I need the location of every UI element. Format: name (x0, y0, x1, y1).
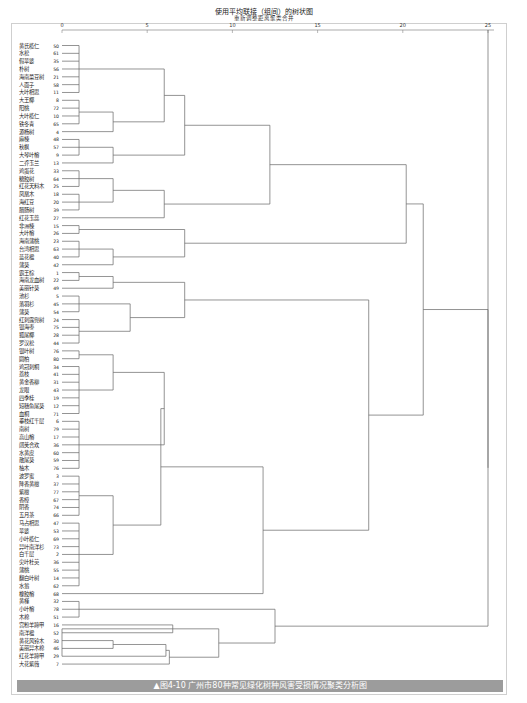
leaf-name: 台湾相思 (19, 245, 40, 253)
leaf-name: 大叶榕 (19, 229, 35, 237)
leaf-name: 池杉 (19, 292, 30, 300)
leaf-id: 36 (53, 443, 59, 448)
leaf-id: 45 (53, 302, 59, 307)
leaf-id: 63 (53, 247, 59, 252)
leaf-name: 糖胶树 (19, 175, 35, 183)
leaf-name: 阔荚合欢 (19, 441, 40, 449)
leaf-id: 14 (53, 576, 59, 581)
leaf-id: 36 (53, 560, 59, 565)
leaf-id: 33 (53, 169, 59, 174)
leaf-id: 7 (56, 662, 59, 667)
leaf-id: 34 (53, 365, 59, 370)
leaf-name: 假苹婆 (19, 57, 35, 65)
leaf-id: 8 (56, 98, 59, 103)
leaf-id: 15 (53, 224, 59, 229)
leaf-name: 血桐 (19, 410, 29, 417)
leaf-id: 59 (53, 458, 59, 463)
leaf-id: 4 (56, 130, 59, 135)
leaf-name: 龙眼 (19, 386, 30, 394)
leaf-name: 蒲桃 (19, 566, 30, 574)
leaf-id: 43 (53, 388, 59, 393)
leaf-name: 木棉 (19, 613, 29, 621)
leaf-labels: 黄氏榄仁50水松61假苹婆35朴树56海南菜豆树21人面子58大叶相思11大王椰… (19, 42, 59, 669)
leaf-id: 18 (53, 192, 59, 197)
leaf-name: 红刺露兜树 (19, 316, 45, 324)
leaf-id: 58 (53, 83, 59, 88)
leaf-name: 蒲葵 (19, 308, 30, 316)
leaf-id: 72 (53, 106, 59, 111)
leaf-id: 6 (56, 419, 59, 424)
leaf-name: 圆柏 (19, 355, 29, 363)
leaf-id: 5 (56, 294, 59, 299)
leaf-name: 黄氏榄仁 (19, 42, 40, 50)
leaf-name: 黄花风铃木 (19, 637, 45, 645)
leaf-name: 短穗鱼尾葵 (19, 402, 45, 410)
leaf-id: 13 (53, 161, 59, 166)
leaf-id: 1 (56, 271, 59, 276)
leaf-id: 67 (53, 498, 59, 503)
leaf-id: 75 (53, 325, 59, 330)
leaf-name: 二乔玉兰 (19, 159, 39, 167)
leaf-id: 35 (53, 59, 59, 64)
leaf-id: 23 (53, 239, 59, 244)
leaf-name: 大王椰 (19, 96, 35, 104)
leaf-id: 20 (53, 200, 59, 205)
leaf-id: 10 (53, 114, 59, 119)
leaf-id: 22 (53, 278, 59, 283)
leaf-id: 25 (53, 184, 59, 189)
leaf-id: 26 (53, 231, 59, 236)
leaf-id: 41 (53, 372, 59, 377)
leaf-name: 落羽杉 (19, 300, 35, 308)
leaf-id: 42 (53, 263, 59, 268)
leaf-id: 21 (53, 75, 59, 80)
leaf-name: 五月茶 (19, 511, 35, 519)
leaf-name: 白千层 (19, 550, 34, 558)
leaf-id: 74 (53, 505, 59, 510)
leaf-name: 银叶树 (19, 347, 35, 355)
leaf-id: 24 (53, 318, 59, 323)
leaf-name: 麻楝 (19, 135, 30, 143)
leaf-id: 48 (53, 137, 59, 142)
leaf-id: 80 (53, 357, 59, 362)
leaf-id: 46 (53, 646, 59, 651)
leaf-name: 尖叶杜英 (19, 558, 40, 566)
leaf-name: 银海枣 (19, 323, 35, 331)
leaf-name: 柚木 (19, 464, 30, 472)
leaf-name: 非洲楝 (19, 222, 35, 230)
leaf-id: 49 (53, 286, 59, 291)
leaf-id: 71 (53, 412, 59, 417)
leaf-id: 28 (53, 333, 59, 338)
leaf-id: 79 (53, 427, 59, 432)
leaf-name: 橡胶榕 (19, 590, 35, 598)
leaf-name: 波罗蜜 (19, 472, 34, 480)
leaf-id: 3 (56, 474, 59, 479)
leaf-name: 苹婆 (19, 527, 30, 535)
leaf-id: 76 (53, 349, 59, 354)
leaf-id: 56 (53, 67, 59, 72)
leaf-name: 霸王棕 (19, 269, 35, 277)
leaf-id: 54 (53, 310, 59, 315)
leaf-id: 44 (53, 341, 59, 346)
dendrogram: 0510152025 黄氏榄仁50水松61假苹婆35朴树56海南菜豆树21人面子… (0, 0, 527, 703)
x-tick-label: 20 (400, 22, 406, 28)
leaf-id: 37 (53, 482, 59, 487)
leaf-id: 27 (53, 216, 59, 221)
leaf-name: 荔枝 (19, 370, 30, 378)
leaf-name: 四季桂 (19, 394, 35, 402)
leaf-id: 29 (53, 654, 59, 659)
leaf-name: 红花羊蹄甲 (19, 652, 44, 660)
leaf-name: 黄金香柳 (19, 378, 39, 386)
leaf-name: 大叶相思 (19, 88, 40, 96)
leaf-id: 69 (53, 537, 59, 542)
leaf-id: 73 (53, 545, 59, 550)
leaf-name: 水松 (19, 49, 30, 57)
x-axis: 0510152025 (60, 22, 494, 33)
leaf-id: 9 (56, 153, 59, 158)
leaf-id: 11 (53, 90, 59, 95)
leaf-name: 美丽异木棉 (19, 644, 44, 652)
leaf-name: 罗汉松 (19, 339, 35, 347)
leaf-name: 人面子 (19, 82, 35, 89)
leaf-name: 海南蒲桃 (19, 237, 40, 245)
leaf-name: 蒲葵 (19, 261, 30, 269)
leaf-id: 16 (53, 623, 59, 628)
